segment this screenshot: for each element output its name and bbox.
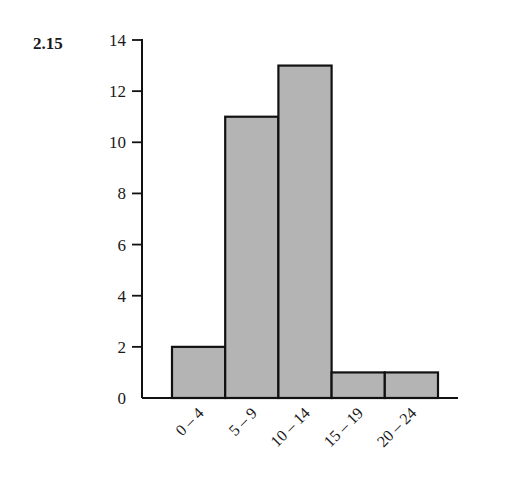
bar-1519 xyxy=(332,372,385,398)
x-axis-labels: 0 – 45 – 910 – 1415 – 1920 – 24 xyxy=(172,404,419,450)
y-tick-label: 10 xyxy=(109,133,126,152)
y-axis-ticks: 02468101214 xyxy=(109,31,142,408)
x-category-label: 0 – 4 xyxy=(172,404,207,439)
y-tick-label: 0 xyxy=(118,389,127,408)
y-tick-label: 8 xyxy=(118,184,127,203)
bars-group xyxy=(172,66,438,398)
bar-2024 xyxy=(385,372,438,398)
y-tick-label: 2 xyxy=(118,338,127,357)
x-category-label: 5 – 9 xyxy=(225,404,260,439)
bar-04 xyxy=(172,347,225,398)
bar-59 xyxy=(225,117,278,398)
x-category-label: 15 – 19 xyxy=(320,404,366,450)
y-tick-label: 4 xyxy=(118,287,127,306)
y-tick-label: 6 xyxy=(118,236,127,255)
x-category-label: 20 – 24 xyxy=(374,404,420,450)
histogram-chart: 02468101214 0 – 45 – 910 – 1415 – 1920 –… xyxy=(0,0,512,484)
y-tick-label: 14 xyxy=(109,31,127,50)
bar-1014 xyxy=(278,66,331,398)
x-category-label: 10 – 14 xyxy=(267,404,313,450)
y-tick-label: 12 xyxy=(109,82,126,101)
